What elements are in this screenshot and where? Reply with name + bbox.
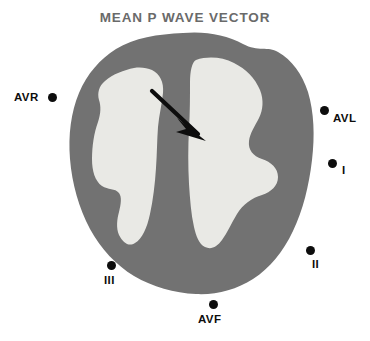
lead-label-i: I bbox=[342, 164, 346, 176]
lead-dot-iii bbox=[107, 261, 116, 270]
lead-label-avr: AVR bbox=[14, 91, 39, 103]
lead-dot-ii bbox=[306, 246, 315, 255]
lead-label-avl: AVL bbox=[333, 112, 356, 124]
lead-label-ii: II bbox=[312, 258, 319, 270]
mean-p-wave-vector-figure: MEAN P WAVE VECTOR AVR AVL I II III AVF bbox=[0, 0, 370, 341]
lead-dot-i bbox=[328, 159, 337, 168]
lead-dot-avr bbox=[48, 93, 57, 102]
heart-cross-section-diagram bbox=[0, 0, 370, 341]
lead-dot-avl bbox=[320, 106, 329, 115]
lead-label-iii: III bbox=[104, 274, 115, 286]
lead-label-avf: AVF bbox=[198, 313, 221, 325]
lead-dot-avf bbox=[209, 300, 218, 309]
